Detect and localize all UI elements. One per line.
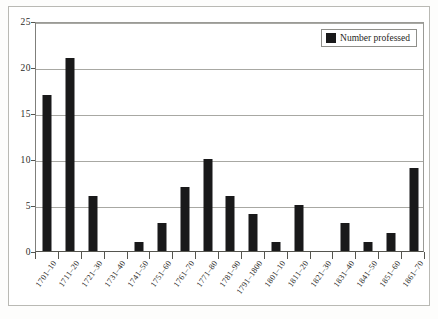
legend-label: Number professed (340, 33, 410, 43)
legend: Number professed (321, 29, 417, 47)
bar (272, 242, 281, 251)
x-axis-tick-mark (401, 252, 402, 259)
x-axis-tick-label: 1811–20 (286, 259, 310, 289)
y-axis-tick-label: 15 (21, 109, 32, 119)
bar-slot (379, 23, 402, 251)
x-axis-tick-label: 1751–60 (149, 259, 174, 289)
x-axis-ticks (35, 252, 424, 259)
bar (157, 223, 166, 251)
plot-area: Number professed (35, 22, 424, 252)
bar-slot (333, 23, 356, 251)
bar-slot (150, 23, 173, 251)
x-axis-tick-label: 1841–50 (355, 259, 380, 289)
x-axis-tick-mark (35, 252, 36, 259)
bar (409, 168, 418, 251)
bar-slot (36, 23, 59, 251)
legend-swatch-number-professed (326, 33, 336, 43)
x-axis-labels: 1701–101711–201721–301731–401741–501751–… (35, 259, 424, 307)
bar (43, 95, 52, 251)
bars-layer (36, 23, 423, 251)
y-axis: 0510152025 (0, 22, 31, 252)
x-axis-tick-mark (378, 252, 379, 259)
x-axis-tick-label: 1711–20 (57, 259, 81, 289)
x-axis-tick-mark (127, 252, 128, 259)
x-axis-tick-label: 1701–10 (34, 259, 59, 289)
bar (295, 205, 304, 251)
bar-slot (173, 23, 196, 251)
x-axis-tick-mark (424, 252, 425, 259)
x-axis-tick-mark (264, 252, 265, 259)
y-axis-tick-label: 10 (21, 155, 32, 165)
x-axis-tick-mark (241, 252, 242, 259)
bar-slot (242, 23, 265, 251)
x-axis-tick-mark (81, 252, 82, 259)
bar-slot (196, 23, 219, 251)
bar (203, 159, 212, 251)
y-axis-tick-label: 20 (21, 63, 32, 73)
x-axis-tick-label: 1721–30 (80, 259, 105, 289)
bar (340, 223, 349, 251)
bar-slot (356, 23, 379, 251)
x-axis-tick-mark (195, 252, 196, 259)
x-axis-tick-label: 1731–40 (103, 259, 128, 289)
x-axis-tick-mark (287, 252, 288, 259)
bar-slot (265, 23, 288, 251)
x-axis-tick-label: 1741–50 (126, 259, 151, 289)
bar-slot (402, 23, 425, 251)
bar-slot (82, 23, 105, 251)
x-axis-tick-mark (172, 252, 173, 259)
x-axis-tick-mark (310, 252, 311, 259)
x-axis-tick-label: 1821–30 (309, 259, 334, 289)
x-axis-tick-label: 1761–70 (171, 259, 196, 289)
x-axis-tick-mark (58, 252, 59, 259)
y-axis-tick-label: 25 (21, 17, 32, 27)
bar (386, 233, 395, 251)
bar (89, 196, 98, 251)
x-axis-tick-label: 1771–80 (194, 259, 219, 289)
bar (134, 242, 143, 251)
x-axis-tick-label: 1851–60 (377, 259, 402, 289)
bar (180, 187, 189, 251)
bar-slot (59, 23, 82, 251)
bar (226, 196, 235, 251)
bar (66, 58, 75, 251)
bar-slot (288, 23, 311, 251)
x-axis-tick-mark (104, 252, 105, 259)
bar-slot (311, 23, 334, 251)
x-axis-tick-mark (218, 252, 219, 259)
x-axis-tick-label: 1801–10 (263, 259, 288, 289)
bar-slot (128, 23, 151, 251)
x-axis-tick-mark (149, 252, 150, 259)
bar-chart-figure: 0510152025 Number professed 1701–101711–… (0, 0, 438, 319)
bar (363, 242, 372, 251)
bar-slot (105, 23, 128, 251)
x-axis-tick-label: 1861–70 (400, 259, 425, 289)
bar (249, 214, 258, 251)
x-axis-tick-mark (332, 252, 333, 259)
x-axis-tick-label: 1831–40 (332, 259, 357, 289)
x-axis-tick-mark (355, 252, 356, 259)
bar-slot (219, 23, 242, 251)
